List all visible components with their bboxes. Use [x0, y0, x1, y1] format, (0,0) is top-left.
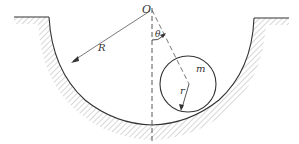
center-to-ball-line: [152, 10, 189, 84]
label-center-o: O: [142, 3, 151, 16]
ball: [160, 56, 216, 112]
label-theta: θ: [155, 29, 161, 39]
label-mass: m: [196, 63, 205, 74]
ground-hatch-right: [152, 18, 289, 140]
trough-ball-diagram: O R θ m r: [0, 0, 299, 144]
small-radius-arrowhead: [179, 104, 184, 111]
label-big-radius: R: [97, 42, 106, 53]
big-radius-arrowhead: [71, 56, 79, 63]
label-small-radius: r: [180, 85, 186, 96]
big-radius-line: [73, 11, 150, 61]
ground-hatch-left: [14, 17, 152, 140]
